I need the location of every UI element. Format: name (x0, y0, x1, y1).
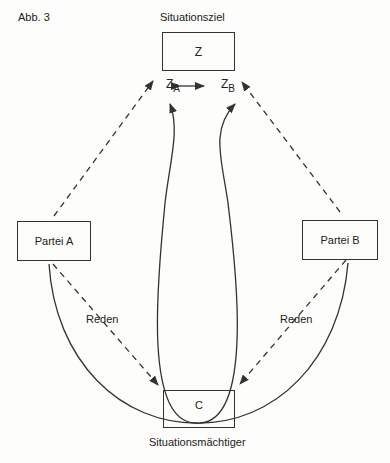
party-a-label: Partei A (35, 235, 74, 247)
curve-b-to-za (157, 104, 348, 423)
goal-part-b: ZB (221, 77, 235, 91)
party-b-box: Partei B (302, 220, 378, 260)
party-b-label: Partei B (320, 234, 359, 246)
goal-part-b-sub: B (228, 83, 235, 94)
mediator-title: Situationsmächtiger (149, 436, 246, 448)
figure-label: Abb. 3 (18, 11, 50, 23)
diagram-canvas: Abb. 3 Situationsziel Z ZA ZB Partei A P… (0, 0, 390, 463)
goal-part-a-sub: A (173, 83, 180, 94)
goal-label: Z (195, 45, 202, 59)
talk-b-label: Reden (280, 313, 312, 325)
party-a-box: Partei A (17, 221, 91, 261)
curve-a-to-zb (49, 104, 237, 423)
party-b-to-goal-dashed (242, 82, 340, 212)
mediator-label: C (195, 399, 203, 411)
goal-box: Z (162, 32, 235, 71)
goal-title: Situationsziel (160, 11, 225, 23)
mediator-box: C (163, 390, 235, 428)
party-a-to-goal-dashed (54, 81, 153, 216)
goal-part-a: ZA (166, 77, 180, 91)
talk-a-label: Reden (86, 313, 118, 325)
